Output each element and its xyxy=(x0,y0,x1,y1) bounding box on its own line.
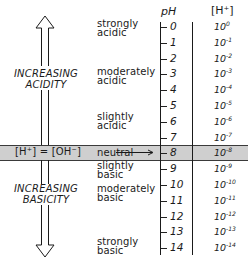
concentration-base: 10 xyxy=(214,242,226,253)
h-concentration-value: 10-1 xyxy=(214,36,232,48)
concentration-exponent: -12 xyxy=(226,210,236,217)
ph-tick xyxy=(161,217,167,218)
ph-value: 9 xyxy=(170,162,177,174)
ph-value: 2 xyxy=(170,52,177,64)
h-concentration-value: 10-10 xyxy=(214,178,236,190)
ph-tick xyxy=(161,248,167,249)
concentration-exponent: -3 xyxy=(226,67,232,74)
concentration-base: 10 xyxy=(214,68,226,79)
concentration-exponent: -2 xyxy=(226,52,232,59)
acidity-basicity-arrow-icon xyxy=(0,0,248,265)
concentration-exponent: -5 xyxy=(226,99,232,106)
h-concentration-value: 10-9 xyxy=(214,162,232,174)
ph-tick xyxy=(161,232,167,233)
concentration-exponent: -1 xyxy=(226,36,232,43)
label-line: INCREASING xyxy=(3,183,89,194)
concentration-exponent: -9 xyxy=(226,162,232,169)
ph-value: 12 xyxy=(170,210,183,222)
label-line: basic xyxy=(97,193,155,202)
h-concentration-value: 10-11 xyxy=(214,194,236,206)
ph-tick xyxy=(161,43,167,44)
concentration-base: 10 xyxy=(214,211,226,222)
ph-value: 6 xyxy=(170,115,177,127)
ph-tick xyxy=(161,201,167,202)
label-line: BASICITY xyxy=(3,194,89,205)
concentration-base: 10 xyxy=(214,53,226,64)
concentration-base: 10 xyxy=(214,100,226,111)
h-concentration-value: 10-13 xyxy=(214,225,236,237)
ph-column-header: pH xyxy=(161,5,176,18)
concentration-exponent: -8 xyxy=(226,146,232,153)
ph-value: 1 xyxy=(170,36,177,48)
h-concentration-value: 10-12 xyxy=(214,210,236,222)
ph-tick xyxy=(161,74,167,75)
h-concentration-value: 10-8 xyxy=(214,146,232,158)
concentration-exponent: 0 xyxy=(226,20,230,27)
ph-tick xyxy=(161,90,167,91)
concentration-exponent: -6 xyxy=(226,115,232,122)
moderately-basic-label: moderately basic xyxy=(97,184,155,202)
ph-value: 10 xyxy=(170,178,183,190)
ph-value: 3 xyxy=(170,67,177,79)
label-line: acidic xyxy=(97,28,138,37)
label-line: INCREASING xyxy=(3,68,89,79)
ph-value: 8 xyxy=(170,146,177,158)
ph-tick xyxy=(161,27,167,28)
ph-value: 5 xyxy=(170,99,177,111)
concentration-base: 10 xyxy=(214,132,226,143)
increasing-basicity-label: INCREASING BASICITY xyxy=(3,183,89,205)
ph-value: 14 xyxy=(170,241,183,253)
concentration-exponent: -11 xyxy=(226,194,236,201)
h-concentration-value: 10-3 xyxy=(214,67,232,79)
label-line: basic xyxy=(97,170,134,179)
label-line: acidic xyxy=(97,76,155,85)
strongly-acidic-label: strongly acidic xyxy=(97,19,138,37)
increasing-acidity-label: INCREASING ACIDITY xyxy=(3,68,89,90)
h-concentration-value: 10-2 xyxy=(214,52,232,64)
label-line: basic xyxy=(97,246,138,255)
ph-tick xyxy=(161,122,167,123)
label-line: acidic xyxy=(97,121,134,130)
concentration-exponent: -10 xyxy=(226,178,236,185)
ph-tick xyxy=(161,169,167,170)
h-concentration-value: 100 xyxy=(214,20,230,32)
ph-value: 0 xyxy=(170,20,177,32)
concentration-exponent: -4 xyxy=(226,83,232,90)
moderately-acidic-label: moderately acidic xyxy=(97,67,155,85)
concentration-base: 10 xyxy=(214,195,226,206)
ph-tick xyxy=(161,106,167,107)
concentration-base: 10 xyxy=(214,179,226,190)
concentration-base: 10 xyxy=(214,147,226,158)
ph-tick xyxy=(161,138,167,139)
slightly-acidic-label: slightly acidic xyxy=(97,112,134,130)
concentration-base: 10 xyxy=(214,84,226,95)
h-concentration-value: 10-6 xyxy=(214,115,232,127)
label-line: ACIDITY xyxy=(3,79,89,90)
concentration-base: 10 xyxy=(214,226,226,237)
concentration-base: 10 xyxy=(214,163,226,174)
ph-value: 13 xyxy=(170,225,183,237)
ph-value: 11 xyxy=(170,194,183,206)
concentration-base: 10 xyxy=(214,116,226,127)
ph-tick xyxy=(161,59,167,60)
h-concentration-value: 10-5 xyxy=(214,99,232,111)
concentration-base: 10 xyxy=(214,37,226,48)
ph-value: 4 xyxy=(170,83,177,95)
h-concentration-value: 10-7 xyxy=(214,131,232,143)
concentration-exponent: -7 xyxy=(226,131,232,138)
h-concentration-column-header: [H⁺] xyxy=(211,4,234,17)
strongly-basic-label: strongly basic xyxy=(97,237,138,255)
slightly-basic-label: slightly basic xyxy=(97,161,134,179)
ph-value: 7 xyxy=(170,131,177,143)
h-concentration-value: 10-14 xyxy=(214,241,236,253)
h-concentration-value: 10-4 xyxy=(214,83,232,95)
neutral-equation: [H⁺] = [OH⁻] xyxy=(8,146,88,157)
concentration-exponent: -13 xyxy=(226,225,236,232)
concentration-base: 10 xyxy=(214,21,226,32)
neutral-label: neutral xyxy=(97,148,133,157)
ph-tick xyxy=(161,185,167,186)
concentration-exponent: -14 xyxy=(226,241,236,248)
ph-tick xyxy=(161,153,167,154)
